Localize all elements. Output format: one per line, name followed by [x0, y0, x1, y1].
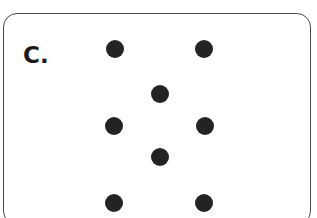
- dot-layer: [4, 14, 310, 218]
- dot-bottom-right: [195, 194, 213, 212]
- dot-pattern-figure: C.: [0, 0, 317, 218]
- dot-top-right: [195, 40, 213, 58]
- panel-card: C.: [3, 13, 311, 218]
- dot-middle-left: [105, 117, 123, 135]
- dot-top-left: [106, 40, 124, 58]
- dot-lower-center: [151, 148, 169, 166]
- dot-middle-right: [196, 117, 214, 135]
- dot-bottom-left: [105, 194, 123, 212]
- dot-upper-center: [151, 85, 169, 103]
